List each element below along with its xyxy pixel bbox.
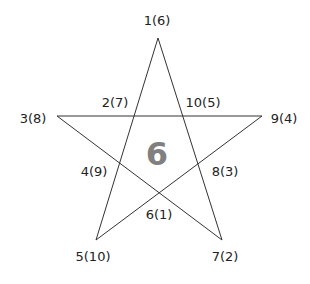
vertex-label-left: 3(8) xyxy=(20,112,47,125)
vertex-label-bottom-right: 7(2) xyxy=(212,250,239,263)
intersection-label-upper-left: 2(7) xyxy=(102,96,129,109)
intersection-label-lower-right: 8(3) xyxy=(212,165,239,178)
center-number: 6 xyxy=(146,138,168,170)
pentagram-diagram: 1(6) 3(8) 9(4) 5(10) 7(2) 2(7) 10(5) 4(9… xyxy=(0,0,310,284)
intersection-label-bottom: 6(1) xyxy=(146,208,173,221)
vertex-label-top: 1(6) xyxy=(144,14,171,27)
vertex-label-bottom-left: 5(10) xyxy=(76,250,111,263)
intersection-label-upper-right: 10(5) xyxy=(186,96,221,109)
intersection-label-lower-left: 4(9) xyxy=(81,165,108,178)
vertex-label-right: 9(4) xyxy=(271,112,298,125)
